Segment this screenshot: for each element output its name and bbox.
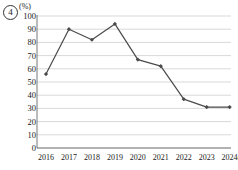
y-tick-label: 10 <box>16 131 36 140</box>
y-tick-label: 100 <box>16 12 36 21</box>
x-axis-tick-labels: 201620172018201920202021202220232024(년) <box>0 151 238 167</box>
x-tick-label: 2016 <box>38 153 54 162</box>
y-tick-label: 60 <box>16 65 36 74</box>
chart-figure: 4 (%) 0102030405060708090100 20162017201… <box>0 0 238 170</box>
x-tick-label: 2019 <box>107 153 123 162</box>
x-tick-label: 2024(년) <box>221 153 238 162</box>
y-tick-label: 70 <box>16 51 36 60</box>
y-tick-label: 90 <box>16 25 36 34</box>
y-tick-label: 80 <box>16 38 36 47</box>
x-tick-label: 2020 <box>130 153 146 162</box>
series-line <box>46 24 230 107</box>
data-point-marker <box>67 27 71 31</box>
y-axis-tick-labels: 0102030405060708090100 <box>14 0 36 170</box>
y-tick-label: 30 <box>16 104 36 113</box>
y-tick-label: 50 <box>16 78 36 87</box>
x-tick-label: 2018 <box>84 153 100 162</box>
y-tick-label: 40 <box>16 91 36 100</box>
x-tick-label: 2017 <box>61 153 77 162</box>
y-tick-label: 20 <box>16 117 36 126</box>
x-tick-label: 2022 <box>176 153 192 162</box>
x-tick-label: 2021 <box>153 153 169 162</box>
data-series-group <box>44 22 232 109</box>
data-point-marker <box>44 72 48 76</box>
x-tick-label: 2023 <box>199 153 215 162</box>
